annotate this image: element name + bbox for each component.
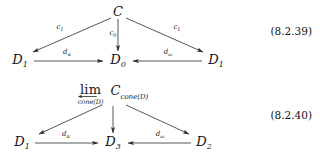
- arrow-label-right-to-center-2: dω: [156, 131, 165, 139]
- arrow-label-apex-to-center-1-sub: 0: [113, 32, 116, 38]
- limit-operator: lim cone(D): [78, 83, 104, 105]
- equation-tag-8-2-40: (8.2.40): [270, 109, 312, 121]
- node-center-object-2-base: D: [105, 134, 115, 149]
- limit-object-sub: cone(D): [120, 92, 148, 100]
- node-left-object-2: D1: [14, 135, 30, 152]
- arrow-label-apex-to-left-1: c1: [56, 24, 63, 32]
- arrow-apex-to-left: [33, 18, 111, 52]
- arrow-label-left-to-center-1: dα: [63, 49, 71, 57]
- node-center-object-1: D0: [110, 53, 126, 70]
- node-right-object-1: D1: [208, 53, 224, 70]
- arrow-label-left-to-center-1-sub: α: [68, 51, 71, 57]
- arrow-label-apex-to-right-1-sub: 1: [177, 26, 180, 32]
- node-center-object-2-sub: 3: [116, 142, 121, 151]
- node-right-object-2-base: D: [196, 134, 206, 149]
- node-right-object-2-sub: 2: [207, 142, 212, 151]
- node-center-object-2: D3: [105, 135, 121, 152]
- node-left-object-2-base: D: [14, 134, 24, 149]
- node-apex-limit: lim cone(D) Ccone(D): [78, 83, 149, 105]
- arrow-label-apex-to-right-1: c1: [173, 24, 180, 32]
- equation-block-8-2-40: lim cone(D) Ccone(D) D1 D3 D2 dα dω: [0, 82, 320, 164]
- arrow-label-right-to-center-2-sub: ω: [160, 133, 164, 139]
- diagram-canvas-2: lim cone(D) Ccone(D) D1 D3 D2 dα dω: [0, 82, 250, 164]
- arrow-label-apex-to-center-1: c0: [109, 30, 116, 38]
- arrow-label-apex-to-left-1-sub: 1: [60, 26, 63, 32]
- node-left-object-2-sub: 1: [25, 142, 30, 151]
- node-left-object-1: D1: [12, 53, 28, 70]
- arrow-label-left-to-center-2-sub: α: [67, 133, 70, 139]
- equation-tag-8-2-39: (8.2.39): [270, 25, 312, 37]
- node-center-object-1-base: D: [110, 52, 120, 67]
- arrow-label-right-to-center-1-sub: ω: [168, 51, 172, 57]
- limit-operator-subscript: cone(D): [78, 99, 104, 106]
- node-right-object-1-sub: 1: [219, 60, 224, 69]
- node-right-object-1-base: D: [208, 52, 218, 67]
- diagram-canvas-1: C D1 D0 D1 c1 c0 c1 dα dω: [0, 0, 250, 82]
- node-left-object-1-sub: 1: [23, 60, 28, 69]
- node-apex-c: C: [113, 5, 123, 18]
- arrow-label-left-to-center-2: dα: [62, 131, 70, 139]
- node-center-object-1-sub: 0: [121, 60, 126, 69]
- equation-block-8-2-39: C D1 D0 D1 c1 c0 c1 dα dω (8.2.39): [0, 0, 320, 82]
- arrow-apex-to-left: [39, 105, 102, 134]
- limit-object: Ccone(D): [111, 84, 149, 101]
- node-right-object-2: D2: [196, 135, 212, 152]
- arrow-label-right-to-center-1: dω: [164, 49, 173, 57]
- underleftarrow-icon: [78, 95, 104, 98]
- diagram-arrows-1: [0, 0, 250, 82]
- node-apex-c-label: C: [113, 4, 123, 19]
- node-left-object-1-base: D: [12, 52, 22, 67]
- limit-object-base: C: [111, 83, 121, 98]
